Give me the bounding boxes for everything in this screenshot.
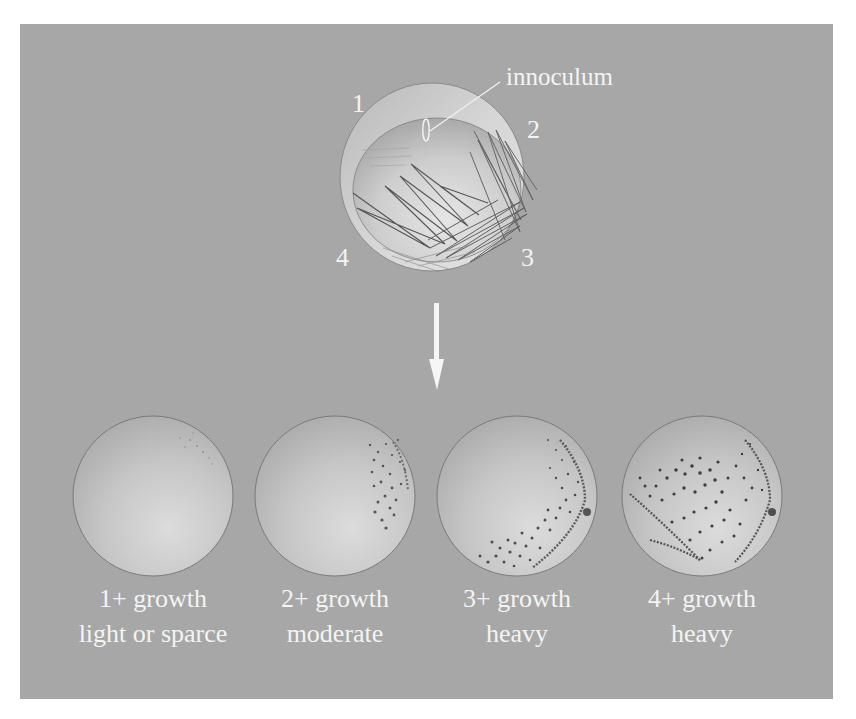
quadrant-label-3: 3: [521, 243, 534, 272]
quadrant-label-1: 1: [352, 89, 365, 118]
growth-plate-4: [622, 416, 782, 576]
streak-plate-diagram: innoculum 1 2 3 4: [0, 0, 856, 719]
growth-grade-3: 3+ growth: [463, 584, 571, 613]
growth-grade-2: 2+ growth: [281, 584, 389, 613]
growth-plate-1: [73, 416, 233, 576]
arrow-down-icon: [429, 303, 444, 390]
quadrant-label-4: 4: [336, 243, 349, 272]
growth-grade-1: 1+ growth: [99, 584, 207, 613]
growth-description-2: moderate: [287, 619, 384, 648]
growth-plate-2: [255, 416, 415, 576]
growth-description-1: light or sparce: [79, 619, 228, 648]
quadrant-label-2: 2: [527, 115, 540, 144]
growth-grade-4: 4+ growth: [648, 584, 756, 613]
growth-plate-3: [437, 416, 597, 576]
innoculum-label: innoculum: [506, 63, 613, 90]
growth-description-4: heavy: [671, 619, 733, 648]
inoculation-plate: [340, 82, 537, 272]
growth-description-3: heavy: [486, 619, 548, 648]
